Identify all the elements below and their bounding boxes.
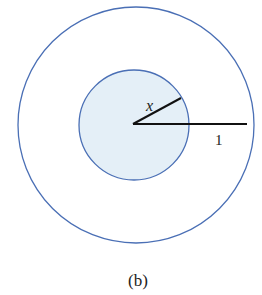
figure-caption: (b) <box>0 271 262 291</box>
label-x: x <box>145 97 153 114</box>
label-one: 1 <box>215 132 223 148</box>
concentric-circles-diagram: x 1 <box>0 0 262 295</box>
